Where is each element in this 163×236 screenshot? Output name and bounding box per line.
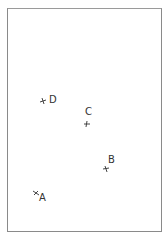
point-label: A xyxy=(39,193,46,203)
point-label: B xyxy=(108,155,115,165)
cross-marker-icon xyxy=(39,97,47,105)
cross-marker-icon xyxy=(102,165,110,173)
point-label: D xyxy=(49,95,57,105)
point-label: C xyxy=(85,107,92,117)
cross-marker-icon xyxy=(83,120,91,128)
